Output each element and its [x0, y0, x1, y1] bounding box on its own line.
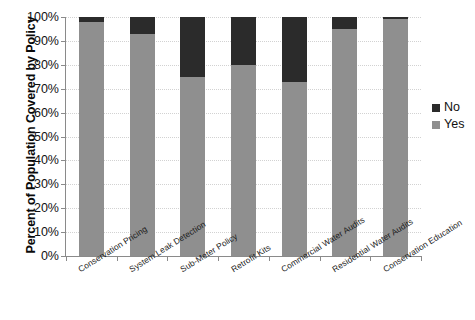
y-axis-tick-label: 10%: [15, 225, 59, 239]
bar-segment-no[interactable]: [231, 17, 256, 65]
y-axis-tick: [61, 113, 66, 114]
bar-segment-yes[interactable]: [79, 22, 104, 256]
chart-legend: NoYes: [432, 99, 464, 133]
y-axis-tick-label: 40%: [15, 153, 59, 167]
y-axis-tick-label: 80%: [15, 58, 59, 72]
x-axis-tick: [269, 256, 270, 261]
x-axis-tick: [66, 256, 67, 261]
y-axis-tick: [61, 17, 66, 18]
bar-segment-yes[interactable]: [130, 34, 155, 256]
y-axis-tick: [61, 89, 66, 90]
y-axis-tick-label: 60%: [15, 106, 59, 120]
bar-stack[interactable]: [282, 17, 307, 256]
y-axis-tick-label: 0%: [15, 249, 59, 263]
legend-label: No: [444, 101, 460, 114]
bar-segment-yes[interactable]: [282, 82, 307, 256]
y-axis-tick: [61, 41, 66, 42]
y-axis-tick-label: 20%: [15, 201, 59, 215]
chart-container: Percent of Population Covered by Policy …: [0, 0, 475, 320]
y-axis-tick-label: 70%: [15, 82, 59, 96]
bar-segment-no[interactable]: [180, 17, 205, 77]
plot-area: 0%10%20%30%40%50%60%70%80%90%100%: [65, 17, 421, 257]
x-axis-tick: [218, 256, 219, 261]
legend-swatch-icon: [432, 121, 440, 129]
legend-item[interactable]: No: [432, 99, 464, 116]
legend-item[interactable]: Yes: [432, 116, 464, 133]
bar-stack[interactable]: [79, 17, 104, 256]
bar-stack[interactable]: [231, 17, 256, 256]
y-axis-tick: [61, 160, 66, 161]
bar-stack[interactable]: [130, 17, 155, 256]
bar-segment-yes[interactable]: [231, 65, 256, 256]
y-axis-tick: [61, 232, 66, 233]
bar-segment-no[interactable]: [130, 17, 155, 34]
y-axis-tick-label: 90%: [15, 34, 59, 48]
y-axis-tick: [61, 65, 66, 66]
x-axis-tick: [370, 256, 371, 261]
y-axis-tick-label: 30%: [15, 177, 59, 191]
y-axis-tick-label: 50%: [15, 130, 59, 144]
bar-segment-no[interactable]: [282, 17, 307, 82]
x-axis-tick: [117, 256, 118, 261]
y-axis-tick: [61, 184, 66, 185]
y-axis-tick: [61, 208, 66, 209]
legend-swatch-icon: [432, 104, 440, 112]
y-axis-tick-label: 100%: [15, 10, 59, 24]
y-axis-tick: [61, 137, 66, 138]
legend-label: Yes: [444, 118, 464, 131]
bar-segment-no[interactable]: [332, 17, 357, 29]
x-axis-tick: [421, 256, 422, 261]
x-axis-tick: [167, 256, 168, 261]
x-axis-tick: [320, 256, 321, 261]
